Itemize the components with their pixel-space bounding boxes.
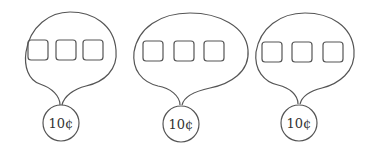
answer-box-2-3[interactable] [204,41,224,61]
speech-bubble-3 [256,13,354,104]
answer-box-2-2[interactable] [174,41,194,61]
answer-box-1-3[interactable] [83,40,103,60]
answer-box-1-1[interactable] [28,40,48,60]
coin-label-1: 10¢ [49,116,74,131]
answer-box-3-3[interactable] [323,42,343,62]
coin-bubble-diagram: 10¢ 10¢ 10¢ [0,0,369,150]
coin-label-3: 10¢ [287,116,312,131]
answer-box-1-2[interactable] [56,40,76,60]
coin-label-2: 10¢ [169,117,194,132]
speech-bubble-2 [134,13,248,105]
answer-box-2-1[interactable] [143,41,163,61]
answer-box-3-2[interactable] [292,42,312,62]
answer-box-3-1[interactable] [262,42,282,62]
